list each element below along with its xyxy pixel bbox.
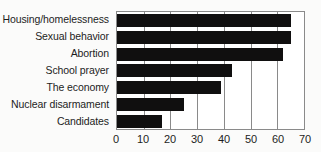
category-label: Candidates [0, 113, 113, 130]
category-label: School prayer [0, 62, 113, 79]
bar-row [117, 115, 304, 128]
bars-group [117, 12, 304, 129]
category-axis-labels: Housing/homelessness Sexual behavior Abo… [0, 11, 113, 130]
bar-row [117, 14, 304, 27]
bar [117, 48, 283, 61]
horizontal-bar-chart: Housing/homelessness Sexual behavior Abo… [0, 0, 321, 152]
plot-area [116, 11, 305, 130]
bar [117, 98, 184, 111]
bar-row [117, 98, 304, 111]
value-tick-label: 10 [137, 133, 149, 145]
category-label: The economy [0, 79, 113, 96]
bar-row [117, 81, 304, 94]
bar [117, 81, 221, 94]
value-tick-label: 30 [191, 133, 203, 145]
value-tick-label: 0 [113, 133, 119, 145]
bar [117, 64, 232, 77]
bar [117, 14, 291, 27]
category-label: Abortion [0, 45, 113, 62]
value-tick-label: 50 [245, 133, 257, 145]
value-axis-labels: 010203040506070 [116, 131, 305, 151]
value-tick-label: 60 [272, 133, 284, 145]
category-label: Nuclear disarmament [0, 96, 113, 113]
category-label: Sexual behavior [0, 28, 113, 45]
bar-row [117, 31, 304, 44]
value-tick-label: 70 [299, 133, 311, 145]
value-tick-label: 40 [218, 133, 230, 145]
value-tick-label: 20 [164, 133, 176, 145]
category-label: Housing/homelessness [0, 11, 113, 28]
bar [117, 115, 162, 128]
bar-row [117, 64, 304, 77]
bar [117, 31, 291, 44]
bar-row [117, 48, 304, 61]
